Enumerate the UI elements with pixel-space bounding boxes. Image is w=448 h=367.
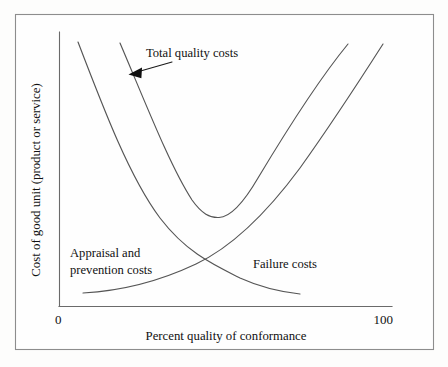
label-failure-costs: Failure costs <box>253 257 317 271</box>
x-tick-label-0: 0 <box>55 312 62 327</box>
label-appraisal-prevention-line1: Appraisal and <box>70 246 141 260</box>
label-total-quality-costs: Total quality costs <box>146 46 238 60</box>
x-axis-title: Percent quality of conformance <box>146 329 307 343</box>
figure-border <box>16 15 434 350</box>
quality-cost-figure: Total quality costs Failure costs Apprai… <box>0 0 448 367</box>
chart-canvas: Total quality costs Failure costs Apprai… <box>0 0 448 367</box>
x-tick-label-100: 100 <box>374 312 394 327</box>
label-appraisal-prevention-line2: prevention costs <box>70 263 152 277</box>
y-axis-title: Cost of good unit (product or service) <box>29 83 43 276</box>
